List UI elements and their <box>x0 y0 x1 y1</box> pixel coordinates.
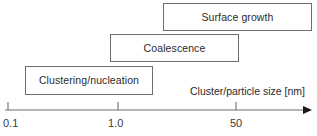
stage-box-coalescence: Coalescence <box>110 34 239 62</box>
axis-title: Cluster/particle size [nm] <box>190 86 305 97</box>
stage-label-clustering-nucleation: Clustering/nucleation <box>39 75 139 86</box>
right-arrow-icon <box>303 106 312 114</box>
axis-tick-label-0: 0.1 <box>3 118 18 129</box>
stage-box-surface-growth: Surface growth <box>163 3 312 31</box>
stage-box-clustering-nucleation: Clustering/nucleation <box>25 66 153 95</box>
axis-tick-label-2: 50 <box>230 118 242 129</box>
axis-tick-label-1: 1.0 <box>108 118 123 129</box>
stage-label-surface-growth: Surface growth <box>201 12 273 23</box>
stage-label-coalescence: Coalescence <box>144 43 206 54</box>
size-axis <box>5 98 312 136</box>
growth-stages-diagram: Surface growth Coalescence Clustering/nu… <box>0 0 317 136</box>
